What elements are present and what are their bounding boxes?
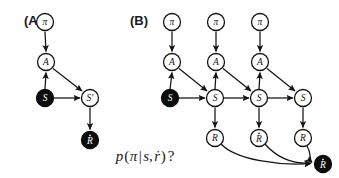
node-action-b-1[interactable]: A	[164, 54, 181, 71]
edge-s0-to-a1	[170, 73, 172, 90]
panel-b-edges	[170, 32, 312, 165]
node-label: π	[170, 17, 175, 27]
formula-close-paren: )	[161, 148, 166, 165]
node-label: π	[214, 17, 219, 27]
node-reward-b-1[interactable]: R	[207, 130, 224, 147]
figure-root: (A) π A S S′	[0, 0, 339, 178]
node-label: R	[255, 134, 262, 144]
edge-a1-to-s1	[179, 69, 207, 92]
node-pi-b-3[interactable]: π	[252, 14, 269, 31]
edge-pi-to-action	[45, 32, 46, 52]
node-label: R	[86, 136, 93, 146]
edge-a2-to-s2	[223, 69, 251, 92]
node-label: S	[257, 93, 262, 103]
graph-canvas: (A) π A S S′	[0, 0, 339, 178]
node-state-b-2[interactable]: S	[251, 90, 268, 107]
node-label: R	[319, 160, 326, 170]
node-state-a[interactable]: S	[37, 90, 54, 107]
node-reward-observed-b[interactable]: R	[315, 156, 332, 173]
node-label: A	[212, 57, 219, 67]
edge-r3-to-robs	[307, 146, 312, 163]
node-label: A	[42, 57, 49, 67]
edge-action-to-state-next	[53, 69, 82, 92]
panel-a: (A) π A S S′	[24, 13, 99, 149]
node-action-a[interactable]: A	[38, 54, 55, 71]
node-label: S′	[87, 93, 95, 103]
formula-p: p	[115, 148, 124, 164]
node-label: π	[258, 17, 263, 27]
query-formula: p(π|s,ṙ)?	[115, 148, 175, 165]
formula-expression: p(π|s,ṙ)?	[115, 148, 175, 165]
formula-bar: |	[139, 148, 142, 164]
edge-s1-to-a2	[215, 73, 216, 90]
node-state-b-1[interactable]: S	[207, 90, 224, 107]
formula-question-mark: ?	[168, 148, 175, 164]
edge-r1-to-robs	[221, 144, 311, 164]
node-label: S	[168, 93, 173, 103]
node-reward-a[interactable]: R	[82, 132, 99, 149]
formula-r-dot: ṙ	[154, 148, 160, 164]
node-reward-b-2[interactable]: R	[251, 130, 268, 147]
node-state-b-3[interactable]: S	[295, 90, 312, 107]
node-label: S	[301, 93, 306, 103]
node-reward-b-3[interactable]: R	[295, 130, 312, 147]
node-label: π	[43, 17, 48, 27]
node-label: S	[43, 93, 48, 103]
node-label: A	[256, 57, 263, 67]
node-label: A	[168, 57, 175, 67]
panel-a-edges	[45, 32, 90, 130]
edge-state-to-action	[45, 73, 46, 90]
node-state-b-0[interactable]: S	[162, 90, 179, 107]
node-state-next-a[interactable]: S′	[82, 90, 99, 107]
node-label: S	[213, 93, 218, 103]
node-pi-a[interactable]: π	[37, 14, 54, 31]
node-action-b-3[interactable]: A	[252, 54, 269, 71]
edge-a3-to-s3	[267, 69, 295, 92]
formula-comma: ,	[149, 148, 153, 164]
node-label: R	[211, 133, 218, 143]
edge-s2-to-a3	[259, 73, 260, 90]
node-pi-b-2[interactable]: π	[208, 14, 225, 31]
panel-b-label: (B)	[130, 13, 148, 28]
formula-pi: π	[130, 148, 138, 164]
formula-open-paren: (	[124, 148, 129, 165]
node-label: R	[299, 133, 306, 143]
node-pi-b-1[interactable]: π	[164, 14, 181, 31]
node-action-b-2[interactable]: A	[208, 54, 225, 71]
